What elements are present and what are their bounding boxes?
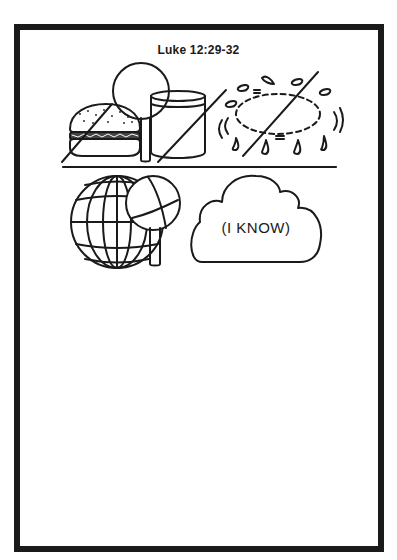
worry-sweat-icon (219, 77, 343, 154)
illustration-canvas (0, 0, 397, 560)
cup-icon (151, 91, 205, 158)
slash-worry-icon (243, 72, 318, 156)
thought-cloud-text: (I KNOW) (190, 219, 322, 236)
worksheet-page: Luke 12:29-32 (0, 0, 397, 560)
